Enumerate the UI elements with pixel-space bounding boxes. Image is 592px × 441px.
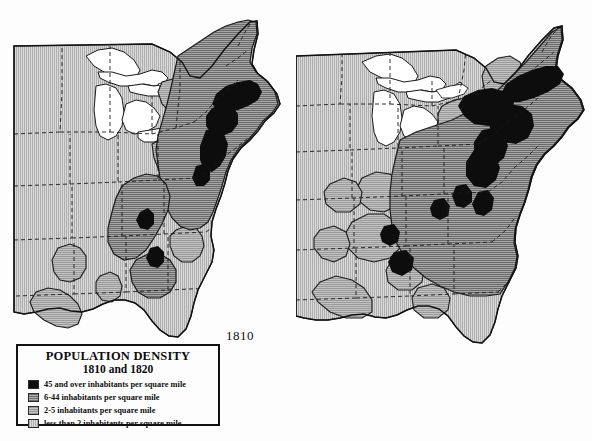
map-legend: POPULATION DENSITY 1810 and 1820 45 and … <box>16 344 220 426</box>
legend-row-under2: less than 2 inhabitants per square mile <box>28 417 212 430</box>
legend-row-6-44: 6-44 inhabitants per square mile <box>28 391 212 404</box>
legend-label-under2: less than 2 inhabitants per square mile <box>44 419 181 428</box>
legend-label-6-44: 6-44 inhabitants per square mile <box>44 393 160 402</box>
map-svg-1820 <box>296 0 592 400</box>
legend-swatch-6-44 <box>28 393 39 402</box>
year-label-1810: 1810 <box>226 328 254 344</box>
map-panel-1820: 1820 <box>296 0 592 400</box>
legend-title: POPULATION DENSITY <box>24 350 212 363</box>
map-panel-1810: 1810 <box>0 0 296 400</box>
legend-row-45plus: 45 and over inhabitants per square mile <box>28 378 212 391</box>
legend-label-2-5: 2-5 inhabitants per square mile <box>44 406 155 415</box>
legend-row-2-5: 2-5 inhabitants per square mile <box>28 404 212 417</box>
legend-swatch-45plus <box>28 380 39 389</box>
legend-swatch-2-5 <box>28 406 39 415</box>
legend-swatch-under2 <box>28 419 39 428</box>
legend-subtitle: 1810 and 1820 <box>24 363 212 376</box>
legend-label-45plus: 45 and over inhabitants per square mile <box>44 380 186 389</box>
population-density-figure: 1810 <box>0 0 592 441</box>
